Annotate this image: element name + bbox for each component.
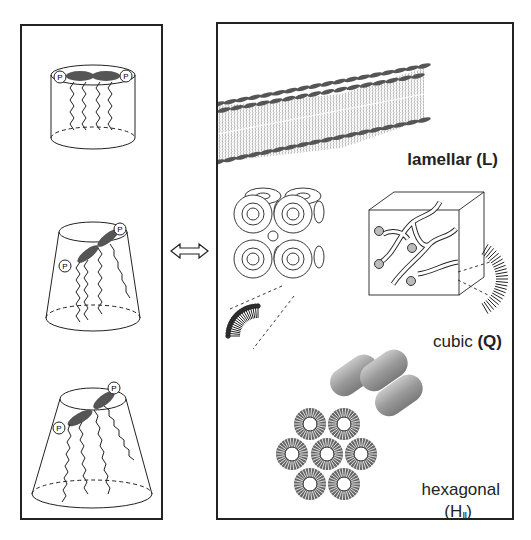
wide-cone-left-edge <box>32 399 60 494</box>
cubic-bicontinuous-cube <box>369 192 484 295</box>
lipid-bristle <box>482 244 488 254</box>
cylinder-bottom-back <box>51 127 135 138</box>
inverted-micelle-cylinder <box>311 438 343 470</box>
water-core <box>337 417 351 431</box>
cubic-phase <box>226 188 508 349</box>
inverted-micelle-cylinder <box>328 468 360 500</box>
headgroup-ellipse <box>392 67 407 75</box>
headgroup-ellipse <box>247 93 262 101</box>
lipid-bristle <box>496 276 508 277</box>
micelle-side <box>314 246 324 268</box>
phosphate-label: P <box>123 72 128 81</box>
lipid-bristle <box>488 299 496 307</box>
wide-cone-bottom-back <box>32 480 152 494</box>
cubic-label-text: cubic <box>433 332 473 351</box>
headgroup-ellipse <box>308 82 323 90</box>
headgroup-blob <box>75 242 101 265</box>
lipid-bristle <box>496 272 508 274</box>
phosphate-label: P <box>62 262 67 271</box>
double-headed-arrow-icon <box>171 244 208 258</box>
cone-bottom-front <box>46 318 140 331</box>
lipid-bristle <box>489 297 498 305</box>
water-core <box>285 447 299 461</box>
water-core <box>303 477 317 491</box>
inverted-micelle-cylinder <box>345 438 377 470</box>
cone-left-edge <box>46 232 59 318</box>
channel-end <box>408 244 417 253</box>
cylinder-bottom-front <box>51 138 135 149</box>
lipid-phases-drawing <box>218 24 516 522</box>
cone-right-edge <box>127 232 140 318</box>
hydrocarbon-tails <box>70 82 112 130</box>
headgroup-ellipse <box>356 73 371 81</box>
wide-cone-bottom-front <box>32 494 152 508</box>
micelle-core <box>287 208 299 220</box>
lipid-bristle <box>491 295 501 302</box>
lipid-bristle <box>491 256 501 263</box>
headgroup-ellipse <box>320 88 335 96</box>
channel-end <box>375 227 384 236</box>
micelle-side <box>314 201 324 223</box>
headgroup-ellipse <box>332 78 347 86</box>
lipid-bristle <box>495 286 507 289</box>
headgroup-dot <box>256 304 260 308</box>
lamellar-phase-label: lamellar (L) <box>407 150 498 170</box>
lamellar-bilayer <box>218 62 431 166</box>
phosphate-label: P <box>117 225 122 234</box>
micelle-junction <box>268 231 278 241</box>
water-core <box>337 477 351 491</box>
lipid-bristle <box>486 300 494 309</box>
cubic-phase-label: cubic (Q) <box>433 332 502 352</box>
wide-cone-right-edge <box>126 399 152 494</box>
headgroup-ellipse <box>283 87 298 95</box>
headgroup-ellipse <box>344 75 359 83</box>
water-core <box>354 447 368 461</box>
headgroup-blob <box>66 71 94 81</box>
lipid-bristle <box>486 248 494 257</box>
channel-end <box>375 260 384 269</box>
inverted-micelle-cylinder <box>294 408 326 440</box>
lipid-bristle <box>496 281 508 282</box>
headgroup-blob <box>92 71 120 81</box>
phosphate-label: P <box>56 424 61 433</box>
headgroup-ellipse <box>259 91 274 99</box>
inverted-micelle-cylinder <box>328 408 360 440</box>
lipid-bristle <box>495 269 507 272</box>
cubic-label-symbol: (Q) <box>477 332 502 351</box>
hexagonal-phase <box>276 344 428 500</box>
lipid-bristle <box>496 284 508 286</box>
wide-cone-lipid-shape <box>32 382 152 508</box>
inverted-micelle-cylinder <box>294 468 326 500</box>
headgroup-ellipse <box>320 80 335 88</box>
hex-symbol-open: (H <box>444 502 462 521</box>
micelle-core <box>287 253 299 265</box>
lipid-bristle <box>484 246 491 256</box>
cone-bottom-back <box>46 305 140 318</box>
cubic-micellar-lattice <box>234 188 324 278</box>
headgroup-ellipse <box>295 84 310 92</box>
lipid-bristle <box>488 251 496 259</box>
water-core <box>320 447 334 461</box>
monolayer-detail-right <box>482 244 508 313</box>
cone-lipid-shape <box>46 222 140 331</box>
micelle-core <box>247 253 259 265</box>
lipid-shapes-panel: P P P P <box>20 24 163 520</box>
inverted-micelle-cylinder <box>276 438 308 470</box>
hex-symbol-close: ) <box>466 502 472 521</box>
hexagonal-phase-symbol: (HII) <box>444 502 472 522</box>
headgroup-ellipse <box>368 71 383 79</box>
lipid-shapes-drawing: P P P P <box>22 26 165 522</box>
lipid-phases-panel: lamellar (L) cubic (Q) hexagonal (HII) <box>216 22 514 520</box>
lipid-bristle <box>484 302 491 312</box>
zoom-dashed-lines-right <box>458 262 490 296</box>
phosphate-label: P <box>111 384 116 393</box>
headgroup-ellipse <box>333 86 348 94</box>
hexagonal-phase-label: hexagonal <box>422 480 500 500</box>
micelle-core <box>247 208 259 220</box>
phosphate-label: P <box>57 73 62 82</box>
headgroup-ellipse <box>271 89 286 97</box>
lipid-bristle <box>489 253 498 261</box>
lipid-bristle <box>482 303 488 313</box>
water-core <box>303 417 317 431</box>
headgroup-ellipse <box>235 96 250 104</box>
